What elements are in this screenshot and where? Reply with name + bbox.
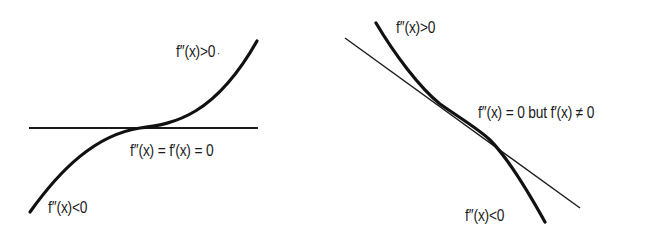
left-panel-graphics <box>29 41 258 212</box>
label-text: f′′(x)>0 <box>176 43 215 60</box>
label-concave-up-left: f′′(x)>0· <box>176 43 220 62</box>
label-sloped-inflection: f′′(x) = 0 but f′(x) ≠ 0 <box>478 104 594 122</box>
label-concave-down-left: f′′(x)<0 <box>48 199 87 217</box>
cubic-curve-right <box>376 23 545 222</box>
sloped-tangent-line <box>345 38 580 208</box>
stray-dot: · <box>217 47 220 59</box>
cubic-curve-left <box>30 41 257 212</box>
label-concave-down-right: f′′(x)<0 <box>465 207 504 225</box>
label-horizontal-inflection: f′′(x) = f′(x) = 0 <box>130 142 213 160</box>
inflection-point-figure: f′′(x)>0· f′′(x) = f′(x) = 0 f′′(x)<0 f′… <box>0 0 664 239</box>
label-concave-up-right: f′′(x)>0 <box>396 19 435 37</box>
right-panel-graphics <box>345 23 580 222</box>
